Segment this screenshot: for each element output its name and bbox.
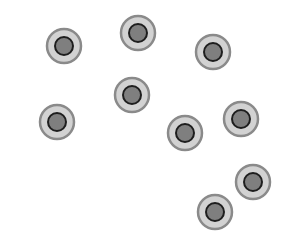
- inner-dot[interactable]: [244, 173, 262, 191]
- inner-dot[interactable]: [232, 110, 250, 128]
- inner-dot[interactable]: [48, 113, 66, 131]
- target-circle[interactable]: [47, 29, 81, 63]
- target-circle[interactable]: [115, 78, 149, 112]
- target-circle[interactable]: [198, 195, 232, 229]
- dot-canvas: [0, 0, 281, 238]
- inner-dot[interactable]: [204, 43, 222, 61]
- inner-dot[interactable]: [206, 203, 224, 221]
- target-circle[interactable]: [196, 35, 230, 69]
- inner-dot[interactable]: [55, 37, 73, 55]
- target-circle[interactable]: [40, 105, 74, 139]
- target-circle[interactable]: [168, 116, 202, 150]
- target-circle[interactable]: [224, 102, 258, 136]
- target-circle[interactable]: [236, 165, 270, 199]
- inner-dot[interactable]: [129, 24, 147, 42]
- target-circle[interactable]: [121, 16, 155, 50]
- inner-dot[interactable]: [123, 86, 141, 104]
- inner-dot[interactable]: [176, 124, 194, 142]
